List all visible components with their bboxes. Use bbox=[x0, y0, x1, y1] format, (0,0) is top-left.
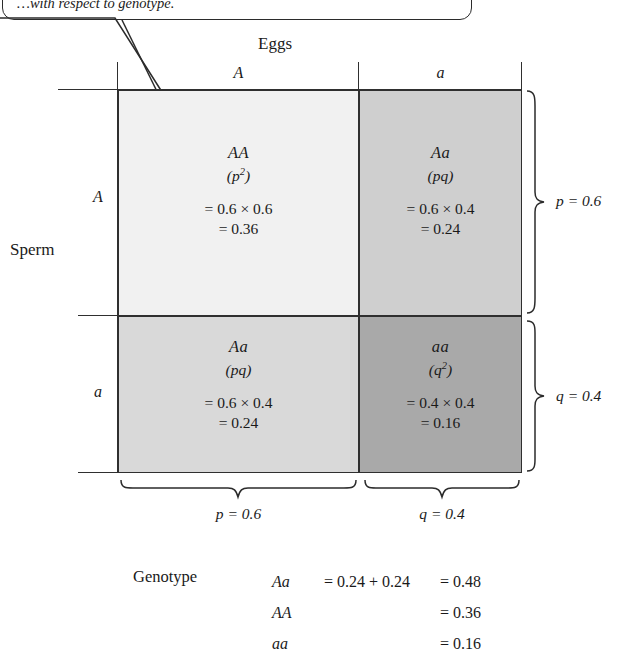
punnett-cell-Aa-top-right: Aa (pq) = 0.6 × 0.4 = 0.24 bbox=[359, 90, 522, 316]
brace-right-q-icon bbox=[524, 318, 550, 474]
summary-genotype: aa bbox=[272, 628, 324, 656]
cell-calculation: = 0.4 × 0.4 = 0.16 bbox=[360, 393, 521, 433]
cell-allele-expression: (pq) bbox=[119, 356, 358, 379]
summary-total: = 0.16 bbox=[440, 628, 481, 656]
callout-text: …with respect to genotype. bbox=[17, 0, 457, 12]
summary-rows: Aa= 0.24 + 0.24= 0.48 AA= 0.36 aa= 0.16 bbox=[272, 566, 572, 656]
summary-genotype: Aa bbox=[272, 566, 324, 597]
summary-row: AA= 0.36 bbox=[272, 597, 572, 628]
cell-calculation: = 0.6 × 0.4 = 0.24 bbox=[119, 393, 358, 433]
cell-genotype: aa bbox=[360, 337, 521, 356]
cell-calculation: = 0.6 × 0.4 = 0.24 bbox=[360, 199, 521, 239]
summary-row: aa= 0.16 bbox=[272, 628, 572, 656]
cell-product: = 0.6 × 0.4 bbox=[119, 393, 358, 413]
cell-genotype: AA bbox=[119, 143, 358, 162]
cell-product: = 0.4 × 0.4 bbox=[360, 393, 521, 413]
punnett-cell-Aa-bottom-left: Aa (pq) = 0.6 × 0.4 = 0.24 bbox=[118, 316, 359, 473]
row-header-A: A bbox=[86, 188, 110, 206]
summary-row: Aa= 0.24 + 0.24= 0.48 bbox=[272, 566, 572, 597]
cell-result: = 0.24 bbox=[119, 413, 358, 433]
summary-genotype: AA bbox=[272, 597, 324, 628]
column-header-A: A bbox=[118, 64, 359, 82]
eggs-axis-title: Eggs bbox=[258, 34, 292, 54]
cell-product: = 0.6 × 0.6 bbox=[119, 199, 358, 219]
summary-total: = 0.36 bbox=[440, 597, 481, 628]
brace-bottom-p-icon bbox=[118, 478, 359, 500]
summary-title: Genotype bbox=[133, 567, 197, 587]
row-header-a: a bbox=[86, 383, 110, 401]
punnett-cell-AA: AA (p2) = 0.6 × 0.6 = 0.36 bbox=[118, 90, 359, 316]
cell-allele-expression: (p2) bbox=[119, 162, 358, 185]
summary-total: = 0.48 bbox=[440, 566, 481, 597]
column-header-a: a bbox=[359, 64, 522, 82]
punnett-cell-aa: aa (q2) = 0.4 × 0.4 = 0.16 bbox=[359, 316, 522, 473]
brace-label-q-bottom: q = 0.4 bbox=[362, 505, 522, 523]
cell-calculation: = 0.6 × 0.6 = 0.36 bbox=[119, 199, 358, 239]
brace-label-q-right: q = 0.4 bbox=[556, 387, 601, 405]
cell-genotype: Aa bbox=[119, 337, 358, 356]
cell-product: = 0.6 × 0.4 bbox=[360, 199, 521, 219]
brace-bottom-q-icon bbox=[362, 478, 522, 500]
brace-label-p-bottom: p = 0.6 bbox=[118, 505, 359, 523]
cell-allele-expression: (pq) bbox=[360, 162, 521, 185]
cell-result: = 0.36 bbox=[119, 219, 358, 239]
cell-allele-expression: (q2) bbox=[360, 356, 521, 379]
brace-right-p-icon bbox=[524, 88, 550, 316]
cell-result: = 0.16 bbox=[360, 413, 521, 433]
callout-box: …with respect to genotype. bbox=[2, 0, 472, 20]
brace-label-p-right: p = 0.6 bbox=[556, 192, 601, 210]
cell-result: = 0.24 bbox=[360, 219, 521, 239]
sperm-axis-title: Sperm bbox=[10, 240, 54, 260]
cell-genotype: Aa bbox=[360, 143, 521, 162]
summary-middle: = 0.24 + 0.24 bbox=[324, 566, 440, 597]
